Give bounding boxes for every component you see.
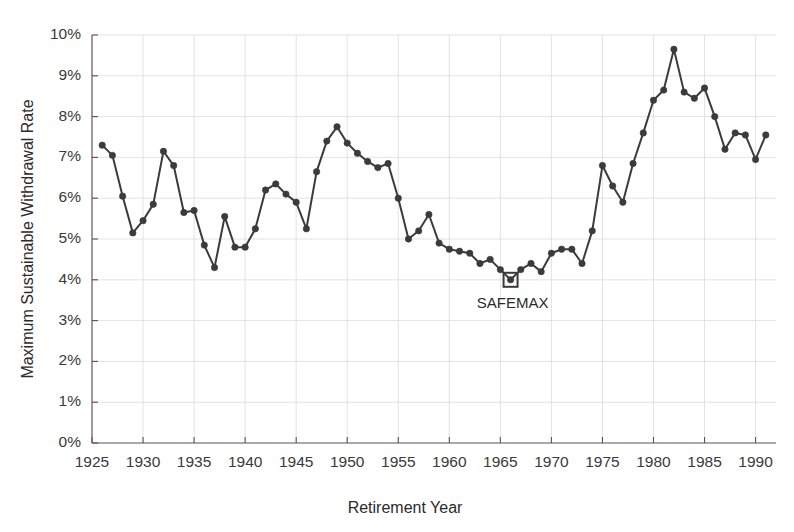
y-tick-label: 10% <box>50 25 81 42</box>
data-point <box>354 150 360 156</box>
x-tick-label: 1935 <box>177 453 211 470</box>
data-point <box>109 152 115 158</box>
data-point <box>426 211 432 217</box>
x-tick-label: 1985 <box>687 453 721 470</box>
data-point <box>273 181 279 187</box>
x-tick-label: 1930 <box>126 453 161 470</box>
y-tick-label: 6% <box>59 188 82 205</box>
data-point <box>334 124 340 130</box>
data-point <box>324 138 330 144</box>
data-point <box>487 256 493 262</box>
data-point <box>446 246 452 252</box>
data-point <box>385 160 391 166</box>
series-data-points <box>99 46 769 283</box>
data-point <box>732 130 738 136</box>
y-tick-label: 0% <box>59 433 82 450</box>
withdrawal-rate-line-chart: 0%1%2%3%4%5%6%7%8%9%10% 1925193019351940… <box>0 0 794 532</box>
data-point <box>191 207 197 213</box>
data-point <box>232 244 238 250</box>
y-tick-label: 2% <box>59 351 82 368</box>
data-point <box>620 199 626 205</box>
data-point <box>375 164 381 170</box>
data-point <box>303 226 309 232</box>
x-tick-label: 1960 <box>432 453 467 470</box>
data-point <box>252 226 258 232</box>
data-point <box>222 213 228 219</box>
data-point <box>405 236 411 242</box>
data-point <box>293 199 299 205</box>
data-point <box>160 148 166 154</box>
data-point <box>589 228 595 234</box>
y-tick-label: 5% <box>59 229 82 246</box>
data-point <box>99 142 105 148</box>
data-point <box>630 160 636 166</box>
y-axis-ticks: 0%1%2%3%4%5%6%7%8%9%10% <box>50 25 98 450</box>
data-point <box>395 195 401 201</box>
y-tick-label: 1% <box>59 392 82 409</box>
y-axis-title: Maximum Sustainable Withdrawal Rate <box>19 99 36 378</box>
x-tick-label: 1945 <box>279 453 313 470</box>
data-point <box>722 146 728 152</box>
x-tick-label: 1940 <box>228 453 263 470</box>
data-point <box>477 260 483 266</box>
data-point <box>650 97 656 103</box>
x-tick-label: 1990 <box>738 453 773 470</box>
data-point <box>344 140 350 146</box>
data-point <box>415 228 421 234</box>
data-point <box>507 277 513 283</box>
data-point <box>150 201 156 207</box>
data-point <box>763 132 769 138</box>
y-tick-label: 9% <box>59 66 82 83</box>
data-point <box>201 242 207 248</box>
data-point <box>456 248 462 254</box>
data-point <box>579 260 585 266</box>
x-axis-title: Retirement Year <box>348 499 463 516</box>
y-tick-label: 8% <box>59 107 82 124</box>
x-tick-label: 1955 <box>381 453 415 470</box>
data-point <box>140 217 146 223</box>
chart-figure: 0%1%2%3%4%5%6%7%8%9%10% 1925193019351940… <box>0 0 794 532</box>
data-point <box>528 260 534 266</box>
data-point <box>242 244 248 250</box>
data-point <box>742 132 748 138</box>
data-point <box>548 250 554 256</box>
data-point <box>671 46 677 52</box>
x-tick-label: 1965 <box>483 453 517 470</box>
y-tick-label: 4% <box>59 270 82 287</box>
data-point <box>283 191 289 197</box>
data-point <box>599 162 605 168</box>
data-point <box>701 85 707 91</box>
data-point <box>681 89 687 95</box>
data-point <box>313 168 319 174</box>
data-point <box>752 156 758 162</box>
data-point <box>661 87 667 93</box>
data-point <box>170 162 176 168</box>
safemax-label: SAFEMAX <box>477 294 549 311</box>
data-point <box>364 158 370 164</box>
x-tick-label: 1970 <box>534 453 569 470</box>
data-point <box>538 268 544 274</box>
data-point <box>609 183 615 189</box>
data-point <box>130 230 136 236</box>
data-point <box>181 209 187 215</box>
y-tick-label: 7% <box>59 147 82 164</box>
x-axis-ticks: 1925193019351940194519501955196019651970… <box>75 437 773 470</box>
data-point <box>211 264 217 270</box>
data-point <box>262 187 268 193</box>
data-point <box>569 246 575 252</box>
data-point <box>640 130 646 136</box>
data-point <box>436 240 442 246</box>
y-tick-label: 3% <box>59 311 82 328</box>
data-point <box>558 246 564 252</box>
data-point <box>119 193 125 199</box>
data-point <box>691 95 697 101</box>
x-tick-label: 1975 <box>585 453 619 470</box>
data-point <box>712 113 718 119</box>
x-tick-label: 1950 <box>330 453 365 470</box>
data-point <box>467 250 473 256</box>
grid-lines <box>92 35 776 443</box>
x-tick-label: 1925 <box>75 453 109 470</box>
x-tick-label: 1980 <box>636 453 671 470</box>
